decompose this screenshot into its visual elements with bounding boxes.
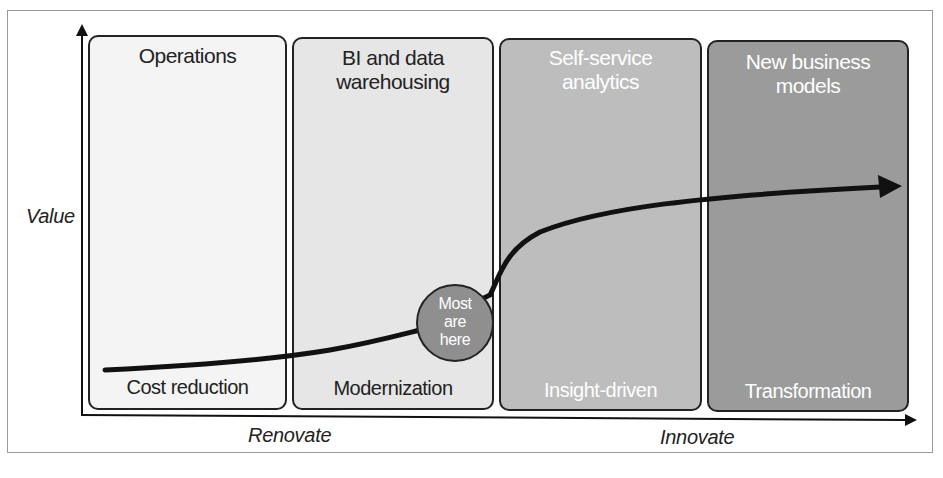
panel-operations-footer: Cost reduction xyxy=(89,375,286,399)
x-axis-arrow-icon xyxy=(905,414,917,426)
panel-new-business-footer: Transformation xyxy=(708,379,908,403)
panel-self-service-title-line-2: analytics xyxy=(500,70,701,94)
x-axis-label-innovate: Innovate xyxy=(660,426,734,449)
panel-new-business-title: New business models xyxy=(708,50,908,98)
y-axis-label: Value xyxy=(26,205,75,228)
panel-bi-title-line-2: warehousing xyxy=(293,70,493,94)
panel-self-service-footer: Insight-driven xyxy=(500,378,701,402)
marker-line-1: Most xyxy=(417,295,493,313)
panel-bi-title: BI and data warehousing xyxy=(293,46,493,94)
panel-new-business-title-line-2: models xyxy=(708,74,908,98)
panel-operations-title: Operations xyxy=(89,44,286,68)
panel-self-service-title: Self-service analytics xyxy=(500,46,701,94)
x-axis-label-renovate: Renovate xyxy=(248,424,331,447)
marker-line-3: here xyxy=(417,331,493,349)
panel-bi-title-line-1: BI and data xyxy=(293,46,493,70)
panel-operations-title-text: Operations xyxy=(139,44,237,67)
marker-label: Most are here xyxy=(417,295,493,349)
y-axis-arrow-icon xyxy=(76,24,88,36)
panel-self-service-title-line-1: Self-service xyxy=(500,46,701,70)
panel-operations-box xyxy=(89,36,286,409)
marker-line-2: are xyxy=(417,313,493,331)
panel-bi-footer: Modernization xyxy=(293,376,493,400)
panel-self-service-box xyxy=(500,39,701,410)
panel-new-business-title-line-1: New business xyxy=(708,50,908,74)
x-axis xyxy=(81,415,905,420)
